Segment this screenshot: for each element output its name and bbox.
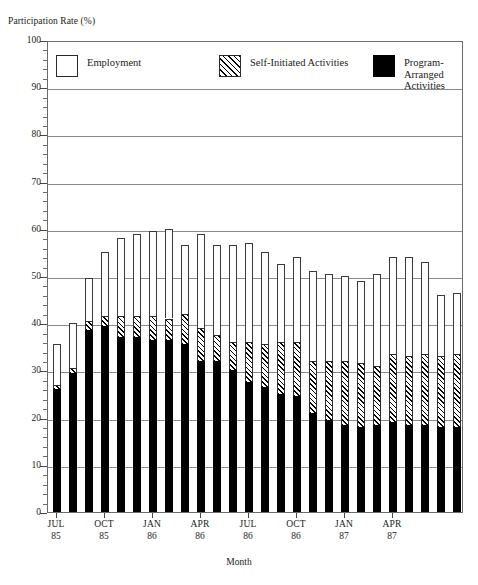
bar: [325, 274, 334, 512]
bar-segment-diagonal-hatch: [405, 356, 414, 424]
bar-segment-solid-white: [357, 281, 366, 364]
program-arranged-swatch-icon: [373, 55, 395, 77]
x-axis-title: Month: [0, 557, 478, 567]
bar-segment-solid-white: [293, 257, 302, 342]
legend-item-self-initiated: Self-Initiated Activities: [219, 54, 348, 77]
y-tick-label: 20: [13, 413, 41, 423]
x-tick-label-year: 86: [130, 531, 174, 541]
bar-segment-diagonal-hatch: [213, 335, 222, 361]
x-tick: [152, 513, 153, 518]
x-tick-label-month: JAN: [130, 519, 174, 529]
bar-segment-solid-white: [421, 262, 430, 354]
bar: [341, 276, 350, 512]
legend-item-program-arranged: Program-Arranged Activities: [373, 54, 456, 92]
bar-segment-solid-white: [53, 344, 62, 384]
bar-segment-solid-black: [245, 382, 254, 512]
legend-label-self-initiated: Self-Initiated Activities: [250, 54, 348, 69]
bar: [197, 234, 206, 512]
y-tick-label: 70: [13, 177, 41, 187]
bar-segment-solid-black: [293, 396, 302, 512]
bar: [309, 271, 318, 512]
bar-segment-solid-black: [101, 326, 110, 512]
bar-segment-solid-white: [405, 257, 414, 356]
bar-segment-solid-black: [309, 413, 318, 512]
x-tick-label-year: 86: [226, 531, 270, 541]
y-tick: [40, 135, 47, 136]
y-tick: [40, 419, 47, 420]
y-tick: [40, 277, 47, 278]
bar-segment-solid-white: [165, 229, 174, 319]
bar-segment-solid-black: [85, 330, 94, 512]
bar: [85, 278, 94, 512]
x-tick-label: JAN86: [130, 519, 174, 541]
y-tick-label: 50: [13, 271, 41, 281]
bar: [229, 245, 238, 512]
bar-segment-solid-black: [197, 361, 206, 512]
y-tick-label: 0: [13, 507, 41, 517]
bar-segment-diagonal-hatch: [117, 316, 126, 337]
bar-segment-solid-black: [149, 340, 158, 512]
bar-segment-solid-black: [357, 427, 366, 512]
x-tick-label-month: JUL: [226, 519, 270, 529]
bar-segment-solid-white: [133, 234, 142, 317]
y-axis-title: Participation Rate (%): [8, 16, 95, 26]
bar: [101, 252, 110, 512]
bar-segment-diagonal-hatch: [277, 342, 286, 394]
bar: [389, 257, 398, 512]
bar-segment-solid-white: [197, 234, 206, 328]
bar-segment-diagonal-hatch: [181, 314, 190, 345]
bar-segment-solid-black: [181, 344, 190, 512]
x-tick-label-year: 87: [370, 531, 414, 541]
bar: [277, 264, 286, 512]
y-tick-label: 10: [13, 460, 41, 470]
x-tick-label-year: 86: [178, 531, 222, 541]
bar-segment-solid-white: [181, 245, 190, 313]
bar-segment-solid-black: [117, 337, 126, 512]
chart-figure: Participation Rate (%) 01020304050607080…: [0, 0, 478, 585]
x-tick-label: JUL85: [34, 519, 78, 541]
bar: [373, 274, 382, 512]
y-tick-label: 30: [13, 365, 41, 375]
x-tick-label-year: 85: [82, 531, 126, 541]
bar-segment-diagonal-hatch: [421, 354, 430, 425]
bar-segment-solid-black: [261, 387, 270, 512]
x-tick: [56, 513, 57, 518]
bar-segment-solid-black: [453, 427, 462, 512]
x-tick-label: OCT85: [82, 519, 126, 541]
legend-label-employment: Employment: [87, 54, 141, 69]
bar: [181, 245, 190, 512]
x-tick-label-month: JAN: [322, 519, 366, 529]
x-tick: [200, 513, 201, 518]
self-initiated-swatch-icon: [219, 55, 241, 77]
y-tick: [40, 230, 47, 231]
bar-segment-solid-black: [213, 361, 222, 512]
bar-segment-solid-white: [309, 271, 318, 361]
bar-segment-diagonal-hatch: [53, 385, 62, 390]
bar: [245, 243, 254, 512]
bar-segment-diagonal-hatch: [245, 342, 254, 382]
bar-segment-solid-black: [373, 425, 382, 512]
x-tick: [296, 513, 297, 518]
bar-segment-diagonal-hatch: [325, 361, 334, 420]
bar-segment-solid-white: [117, 238, 126, 316]
bar-segment-solid-white: [437, 295, 446, 356]
bar-segment-solid-white: [229, 245, 238, 342]
bar-segment-solid-black: [69, 373, 78, 512]
y-tick: [40, 324, 47, 325]
bar-segment-diagonal-hatch: [165, 319, 174, 340]
bar-segment-solid-black: [437, 427, 446, 512]
x-tick-label-month: OCT: [82, 519, 126, 529]
bar-series-container: [48, 42, 462, 512]
y-tick-label: 80: [13, 129, 41, 139]
y-tick-label: 60: [13, 224, 41, 234]
bar-segment-diagonal-hatch: [357, 363, 366, 427]
bar-segment-diagonal-hatch: [389, 354, 398, 422]
y-tick: [40, 513, 47, 514]
y-tick: [40, 466, 47, 467]
bar: [421, 262, 430, 512]
bar-segment-solid-black: [325, 420, 334, 512]
bar-segment-diagonal-hatch: [69, 368, 78, 373]
x-tick-label-month: APR: [178, 519, 222, 529]
bar-segment-diagonal-hatch: [373, 366, 382, 425]
y-tick: [40, 41, 47, 42]
